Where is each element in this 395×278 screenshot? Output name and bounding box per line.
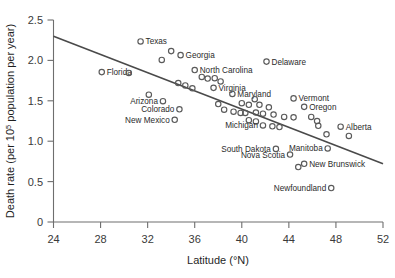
point-marker: [159, 57, 164, 62]
point-marker: [291, 115, 296, 120]
point-label: Georgia: [186, 51, 216, 60]
point-marker: [192, 67, 197, 72]
point-marker: [301, 161, 306, 166]
point-marker: [266, 105, 271, 110]
x-tick-label: 44: [283, 233, 295, 245]
data-point: [246, 102, 251, 107]
point-label: Michigan: [225, 121, 258, 130]
point-marker: [324, 132, 329, 137]
data-point: [281, 114, 286, 119]
y-axis-title: Death rate (per 105 population per year): [4, 24, 17, 218]
point-label: Oregon: [309, 103, 337, 112]
point-marker: [338, 124, 343, 129]
scatter-plot-canvas: 00.51.01.52.02.5 2428323640444852 Florid…: [0, 0, 395, 278]
point-marker: [239, 101, 244, 106]
trend-line: [54, 36, 384, 164]
point-marker: [277, 124, 282, 129]
point-label: Manitoba: [289, 144, 323, 153]
data-point: [231, 109, 236, 114]
point-marker: [264, 59, 269, 64]
point-label: Nova Scotia: [241, 151, 286, 160]
x-tick-label: 36: [189, 233, 201, 245]
data-point: [260, 111, 265, 116]
data-point: [277, 124, 282, 129]
point-marker: [221, 107, 226, 112]
data-point: Nova Scotia: [241, 151, 293, 160]
y-tick-label: 1.5: [28, 95, 43, 107]
point-label: Delaware: [271, 58, 306, 67]
point-label: New Mexico: [125, 116, 170, 125]
point-label: North Carolina: [200, 66, 253, 75]
point-marker: [325, 146, 330, 151]
data-points-layer: FloridaTexasArizonaColoradoNew MexicoGeo…: [99, 37, 372, 193]
x-axis-ticks: 2428323640444852: [47, 222, 389, 245]
point-marker: [160, 99, 165, 104]
data-point: [239, 101, 244, 106]
data-point: Newfoundland: [274, 184, 334, 193]
data-point: [346, 133, 351, 138]
data-point: Georgia: [178, 51, 215, 60]
data-point: Michigan: [225, 121, 265, 130]
y-axis-ticks: 00.51.01.52.02.5: [28, 14, 54, 228]
data-point: [291, 115, 296, 120]
point-marker: [172, 117, 177, 122]
point-marker: [271, 112, 276, 117]
data-point: [296, 164, 301, 169]
data-point: [324, 132, 329, 137]
data-point: Delaware: [264, 58, 307, 67]
data-point: [257, 102, 262, 107]
point-marker: [99, 69, 104, 74]
point-marker: [329, 185, 334, 190]
point-label: Maryland: [237, 90, 271, 99]
chart-figure: 00.51.01.52.02.5 2428323640444852 Florid…: [0, 0, 395, 278]
x-tick-label: 28: [94, 233, 106, 245]
point-marker: [168, 48, 173, 53]
point-marker: [138, 39, 143, 44]
point-marker: [212, 75, 217, 80]
point-marker: [296, 164, 301, 169]
y-tick-label: 0.5: [28, 176, 43, 188]
x-tick-label: 24: [47, 233, 59, 245]
point-marker: [216, 101, 221, 106]
point-label: Texas: [146, 37, 167, 46]
point-label: Newfoundland: [274, 184, 327, 193]
data-point: [266, 105, 271, 110]
data-point: Colorado: [141, 105, 182, 114]
x-tick-label: 40: [236, 233, 248, 245]
point-marker: [205, 76, 210, 81]
x-axis-title: Latitude (°N): [187, 254, 249, 266]
point-marker: [211, 85, 216, 90]
point-marker: [281, 114, 286, 119]
data-point: [168, 48, 173, 53]
plot-axes: [54, 20, 384, 222]
x-tick-label: 52: [377, 233, 389, 245]
data-point: [205, 76, 210, 81]
x-tick-label: 48: [330, 233, 342, 245]
point-label: Colorado: [141, 105, 175, 114]
data-point: Manitoba: [289, 144, 330, 153]
point-marker: [257, 102, 262, 107]
point-marker: [178, 52, 183, 57]
data-point: New Mexico: [125, 116, 177, 125]
point-marker: [270, 124, 275, 129]
point-marker: [260, 111, 265, 116]
point-marker: [246, 102, 251, 107]
data-point: [271, 112, 276, 117]
data-point: Alberta: [338, 123, 372, 132]
data-point: North Carolina: [192, 66, 253, 75]
point-marker: [309, 114, 314, 119]
y-tick-label: 2.0: [28, 54, 43, 66]
data-point: Oregon: [301, 103, 336, 112]
data-point: Texas: [138, 37, 167, 46]
data-point: [212, 75, 217, 80]
point-marker: [301, 104, 306, 109]
point-marker: [177, 107, 182, 112]
data-point: [309, 114, 314, 119]
point-marker: [346, 133, 351, 138]
x-tick-label: 32: [142, 233, 154, 245]
point-marker: [291, 96, 296, 101]
y-tick-label: 2.5: [28, 14, 43, 26]
y-tick-label: 1.0: [28, 135, 43, 147]
data-point: New Brunswick: [301, 160, 366, 169]
data-point: [270, 124, 275, 129]
